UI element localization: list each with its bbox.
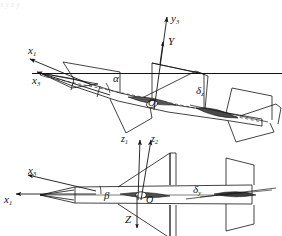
- label-force-z: Z: [125, 214, 131, 225]
- upper-control-surface-shaded: [196, 108, 238, 118]
- lower-tail-fin-bottom: [226, 204, 254, 231]
- label-axis-x3-lower: x3: [28, 165, 36, 176]
- lower-axis-z1-line: [138, 140, 140, 200]
- label-axis-z2: z2: [151, 134, 158, 144]
- technical-diagram: x y z y: [0, 0, 282, 236]
- label-axis-x1-upper: x1: [28, 45, 36, 56]
- upper-force-Y-arrow: [160, 42, 163, 64]
- label-force-y: Y: [168, 36, 174, 47]
- lower-tail-fin-top: [226, 158, 254, 185]
- lower-axis-x3-line: [28, 175, 96, 191]
- upper-tail-fin-far: [240, 104, 281, 124]
- label-angle-beta: β: [104, 190, 109, 201]
- label-axis-y3: y3: [171, 13, 179, 24]
- lower-main-wing-top: [170, 153, 176, 185]
- label-deflection-y: δy: [193, 184, 201, 195]
- upper-control-deflection-line: [190, 105, 268, 122]
- label-origin-upper: O: [148, 98, 155, 108]
- label-angle-alpha: α: [113, 73, 119, 84]
- label-origin-lower: O: [146, 195, 153, 205]
- lower-main-wing-bottom: [170, 205, 176, 236]
- lower-control-surface-aft: [214, 192, 256, 197]
- lower-missile-group: [16, 140, 276, 236]
- lower-axis-z2-line: [141, 140, 151, 200]
- diagram-canvas: [0, 0, 282, 236]
- label-axis-z1: z1: [121, 134, 128, 144]
- label-axis-x3-upper: x3: [32, 75, 282, 86]
- label-axis-x1-lower: x1: [4, 194, 12, 205]
- label-deflection-z: δz: [196, 85, 204, 96]
- lower-angle-beta-arc: [100, 186, 101, 194]
